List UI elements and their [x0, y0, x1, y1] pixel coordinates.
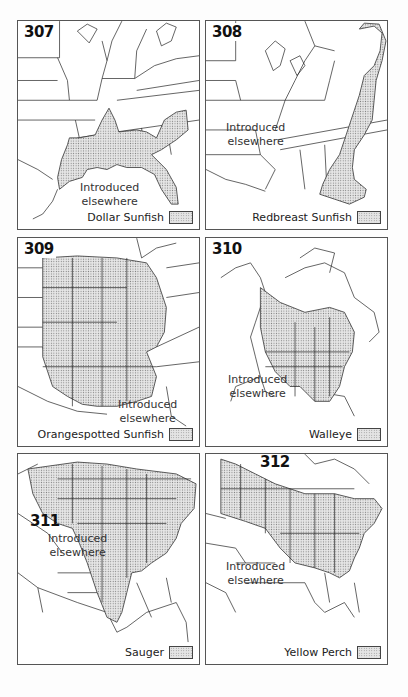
map-panel-311: 311 Introduced elsewhere Sauger [17, 453, 200, 665]
map-number: 311 [28, 512, 62, 530]
map-number: 312 [258, 453, 292, 471]
range-swatch [169, 211, 193, 224]
map-panel-310: 310 Introduced elsewhere Walleye [205, 237, 388, 447]
introduced-note: Introduced elsewhere [80, 181, 139, 209]
range-swatch [357, 428, 381, 441]
map-number: 310 [210, 240, 244, 258]
map-panel-308: 308 Introduced elsewhere Redbreast Sunfi… [205, 20, 388, 230]
legend: Walleye [309, 428, 381, 441]
species-name: Dollar Sunfish [87, 211, 164, 224]
map-panel-309: 309 Introduced elsewhere Orangespotted S… [17, 237, 200, 447]
introduced-note: Introduced elsewhere [228, 373, 287, 401]
range-swatch [357, 211, 381, 224]
map-panel-312: 312 Introduced elsewhere Yellow Perch [205, 453, 388, 665]
species-name: Sauger [125, 646, 164, 659]
species-name: Redbreast Sunfish [252, 211, 352, 224]
map-number: 309 [22, 240, 56, 258]
range-swatch [357, 646, 381, 659]
species-name: Yellow Perch [284, 646, 352, 659]
introduced-note: Introduced elsewhere [48, 532, 107, 560]
range-swatch [169, 646, 193, 659]
introduced-note: Introduced elsewhere [226, 560, 285, 588]
species-name: Walleye [309, 428, 352, 441]
range-map-312 [206, 454, 387, 664]
legend: Redbreast Sunfish [252, 211, 381, 224]
introduced-note: Introduced elsewhere [226, 121, 285, 149]
legend: Yellow Perch [284, 646, 381, 659]
introduced-note: Introduced elsewhere [118, 398, 177, 426]
legend: Dollar Sunfish [87, 211, 193, 224]
map-panel-307: 307 Introduced elsewhere Dollar Sunfish [17, 20, 200, 230]
map-number: 307 [22, 23, 56, 41]
range-map-311 [18, 454, 199, 664]
map-number: 308 [210, 23, 244, 41]
range-map-310 [206, 238, 387, 446]
legend: Orangespotted Sunfish [37, 428, 193, 441]
legend: Sauger [125, 646, 193, 659]
species-name: Orangespotted Sunfish [37, 428, 164, 441]
range-swatch [169, 428, 193, 441]
